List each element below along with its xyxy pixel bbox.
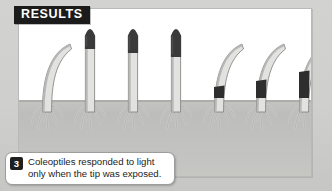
caption-step-badge: 3: [10, 157, 23, 170]
results-label: RESULTS: [14, 6, 90, 24]
base-band: [299, 71, 310, 99]
caption-text: Coleoptiles responded to light only when…: [28, 156, 168, 180]
base-band: [214, 86, 225, 99]
caption-callout: 3 Coleoptiles responded to light only wh…: [5, 152, 175, 185]
coleoptile-7: [290, 9, 312, 176]
figure-root: RESULTS 3 Coleoptiles responded to light…: [0, 0, 332, 191]
base-band: [256, 80, 267, 99]
